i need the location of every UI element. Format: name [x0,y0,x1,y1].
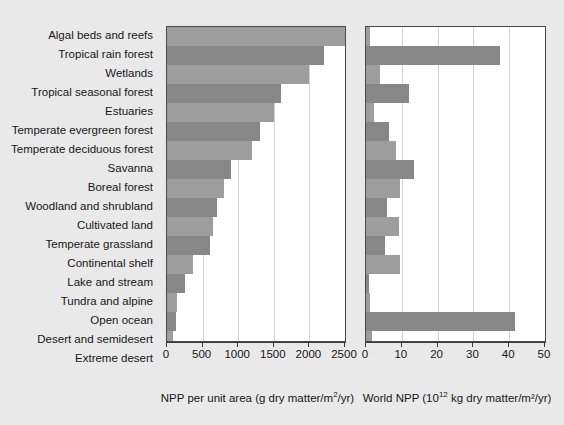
axis-tick [202,342,203,347]
axis-tick [472,342,473,347]
category-label: Temperate grassland [0,235,160,254]
bar [366,255,400,274]
bar [366,217,399,236]
bar-row [167,198,345,217]
superscript: 2 [333,390,337,399]
bar-row [167,27,345,46]
axis-tick-label: 0 [362,348,368,360]
bar-row [366,65,545,84]
bar [167,122,260,141]
axis-tick-label: 50 [538,348,551,360]
axis-tick-label: 500 [192,348,211,360]
bars-right [366,27,545,341]
category-label: Tropical rain forest [0,45,160,64]
bar [167,331,173,341]
axis-line-right [365,342,546,343]
category-label: Temperate evergreen forest [0,121,160,140]
bar-row [167,103,345,122]
bar-row [366,46,545,65]
axis-tick-label: 20 [430,348,443,360]
category-label: Wetlands [0,64,160,83]
bar-row [366,27,545,46]
axis-tick-label: 10 [394,348,407,360]
bar-row [167,331,345,341]
axis-tick [237,342,238,347]
bar-row [167,122,345,141]
bar-row [366,122,545,141]
bar [366,46,500,65]
bar-row [167,65,345,84]
bar [167,312,176,331]
bar [167,293,177,312]
axis-tick [437,342,438,347]
bar-row [167,46,345,65]
bar-row [167,217,345,236]
x-axis-title-right: World NPP (1012 kg dry matter/m²/yr) [352,390,562,404]
axis-tick-label: 30 [466,348,479,360]
axis-line-left [166,342,346,343]
bar [167,84,281,103]
axis-tick [308,342,309,347]
x-axis-left: 05001000150020002500 [166,342,346,364]
category-label: Tundra and alpine [0,292,160,311]
axis-tick-label: 0 [163,348,169,360]
category-label: Algal beds and reefs [0,26,160,45]
category-label: Woodland and shrubland [0,197,160,216]
npp-per-unit-area-panel [166,26,346,342]
bar [167,179,224,198]
axis-tick-label: 40 [502,348,515,360]
plot-area-left [167,27,345,341]
bar-row [366,103,545,122]
bar [366,103,374,122]
axis-tick-label: 2000 [296,348,322,360]
bar [366,198,387,217]
world-npp-panel [365,26,546,342]
category-label: Temperate deciduous forest [0,140,160,159]
axis-tick-label: 2500 [331,348,357,360]
x-axis-title-left: NPP per unit area (g dry matter/m2/yr) [150,390,365,404]
category-label: Open ocean [0,311,160,330]
bar [167,46,324,65]
plot-area-right [366,27,545,341]
category-label: Continental shelf [0,254,160,273]
bar [366,160,414,179]
bar [366,274,369,293]
category-label: Desert and semidesert [0,330,160,349]
bar-row [366,293,545,312]
bar-row [366,217,545,236]
bar-row [366,160,545,179]
bar-row [366,84,545,103]
category-label: Tropical seasonal forest [0,83,160,102]
category-label: Cultivated land [0,216,160,235]
axis-tick [273,342,274,347]
bar-row [167,274,345,293]
axis-tick-label: 1500 [260,348,286,360]
bar-row [167,312,345,331]
category-label: Estuaries [0,102,160,121]
bar-row [366,141,545,160]
category-label: Lake and stream [0,273,160,292]
bar-row [366,331,545,341]
bar [167,27,345,46]
bar-row [167,160,345,179]
bar [366,122,389,141]
chart-figure: Algal beds and reefsTropical rain forest… [0,0,564,425]
bar-row [366,236,545,255]
bar [366,236,385,255]
axis-tick-label: 1000 [224,348,250,360]
axis-tick [344,342,345,347]
bar [366,65,380,84]
bar-row [167,255,345,274]
bar [366,84,409,103]
x-axis-right: 01020304050 [365,342,546,364]
bar-row [167,84,345,103]
category-label: Savanna [0,159,160,178]
bar-row [366,198,545,217]
bar-row [366,255,545,274]
bar-row [167,141,345,160]
bar [167,198,217,217]
category-label: Extreme desert [0,349,160,368]
bar [366,293,370,312]
axis-tick [166,342,167,347]
bar [167,274,185,293]
